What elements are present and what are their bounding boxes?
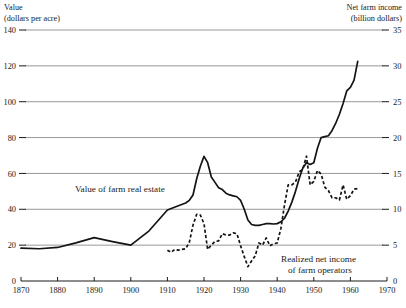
farm-income-chart: 020406080100120140 05101520253035 187018…	[0, 0, 406, 308]
left-axis-tick-label: 140	[3, 26, 16, 35]
right-axis-tick-label: 15	[393, 170, 401, 179]
right-axis-tick-label: 0	[393, 277, 397, 286]
x-axis-tick-label: 1890	[86, 286, 103, 295]
right-axis-tick-label: 35	[393, 26, 401, 35]
right-tick-marks	[382, 30, 389, 245]
right-axis-tick-label: 25	[393, 98, 401, 107]
left-axis-title-line2: (dollars per acre)	[4, 14, 60, 23]
x-axis-tick-label: 1900	[122, 286, 139, 295]
right-axis-tick-label: 20	[393, 134, 401, 143]
x-axis-tick-label: 1910	[159, 286, 176, 295]
chart-canvas: 020406080100120140 05101520253035 187018…	[0, 0, 406, 308]
right-axis-tick-label: 10	[393, 205, 401, 214]
right-axis-tick-label: 5	[393, 241, 397, 250]
right-axis-tick-labels: 05101520253035	[393, 26, 401, 286]
left-axis-tick-label: 40	[8, 205, 16, 214]
x-axis-tick-label: 1940	[269, 286, 286, 295]
left-axis-tick-label: 100	[3, 98, 16, 107]
series-line-net-farm-income	[167, 156, 357, 266]
x-axis-tick-label: 1930	[232, 286, 249, 295]
right-axis-title-line1: Net farm income	[347, 3, 403, 12]
x-axis-tick-label: 1950	[305, 286, 322, 295]
gridlines-group	[25, 30, 383, 245]
left-axis-tick-label: 120	[3, 62, 16, 71]
x-axis-tick-label: 1870	[13, 286, 30, 295]
x-axis-group	[21, 277, 387, 281]
left-axis-tick-label: 20	[8, 241, 16, 250]
series-label-net-income-line1: Realized net income	[281, 254, 356, 264]
left-axis-tick-label: 60	[8, 170, 16, 179]
left-axis-title-line1: Value	[4, 3, 23, 12]
series-line-farm-real-estate	[21, 61, 358, 248]
left-axis-tick-label: 80	[8, 134, 16, 143]
x-axis-tick-label: 1970	[379, 286, 396, 295]
left-tick-marks	[19, 30, 26, 245]
right-axis-title-line2: (billion dollars)	[351, 14, 402, 23]
left-axis-tick-labels: 020406080100120140	[3, 26, 16, 286]
right-axis-tick-label: 30	[393, 62, 401, 71]
x-axis-tick-labels: 1870188018901900191019201930194019501960…	[13, 286, 396, 295]
series-label-net-income-line2: of farm operators	[288, 265, 352, 275]
x-axis-tick-label: 1920	[196, 286, 213, 295]
series-label-farm-real-estate: Value of farm real estate	[75, 184, 165, 194]
x-axis-tick-label: 1960	[342, 286, 359, 295]
x-axis-tick-label: 1880	[49, 286, 66, 295]
left-axis-tick-label: 0	[12, 277, 16, 286]
